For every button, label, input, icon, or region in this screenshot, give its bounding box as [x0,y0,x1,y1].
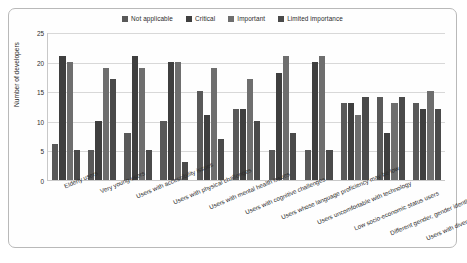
bar [67,62,73,180]
bar [399,97,405,180]
bar-group [337,33,373,180]
bar [103,68,109,180]
bar [348,103,354,180]
bar [276,73,282,180]
bar [254,121,260,180]
y-axis-label: Number of developers [13,42,20,107]
y-axis-tick-label: 5 [40,148,44,155]
bar [290,133,296,180]
bar [168,62,174,180]
legend-item[interactable]: Critical [186,15,215,22]
bar [247,79,253,180]
bar [341,103,347,180]
legend-label: Not applicable [131,15,173,22]
bar [132,56,138,180]
y-axis-tick-label: 10 [37,118,44,125]
chart-card: Not applicableCriticalImportantLimited i… [8,8,457,248]
bar-group [84,33,120,180]
bar [413,103,419,180]
bar [420,109,426,180]
bar [435,109,441,180]
legend-item[interactable]: Limited importance [278,15,343,22]
bar-group [48,33,84,180]
bar-group [373,33,409,180]
legend-label: Critical [195,15,215,22]
x-axis-tick-label: Users with mental health issues [208,204,211,210]
bar-groups [48,33,445,180]
y-axis-tick-label: 0 [40,178,44,185]
bar-group [301,33,337,180]
legend-swatch-icon [228,16,234,22]
legend-label: Important [237,15,265,22]
bar [305,150,311,180]
bar [52,144,58,180]
bar-group [409,33,445,180]
bar [146,150,152,180]
bar [319,56,325,180]
x-axis-labels: Elderly usersVery young usersUsers with … [47,183,445,247]
x-axis-tick-label: Low socio-economic status users [353,225,356,231]
x-axis-tick-label: Users with diverse cultural backgrounds [425,235,428,241]
bar [355,115,361,180]
bar-group [265,33,301,180]
bar [59,56,65,180]
x-axis-tick-label: Users with cognitive challenges [244,209,247,215]
legend-swatch-icon [186,16,192,22]
x-axis-tick-label: Different gender, gender identity of use… [389,230,392,236]
x-axis-tick-label: Users uncomfortable with technology [316,219,319,225]
bar [110,79,116,180]
bar [326,150,332,180]
y-axis-tick-label: 25 [37,30,44,37]
x-axis-tick-label: Elderly users [63,183,66,189]
legend-swatch-icon [278,16,284,22]
y-axis-tick-label: 15 [37,89,44,96]
legend-label: Limited importance [287,15,343,22]
bar-group [120,33,156,180]
bar [124,133,130,180]
x-axis-tick-label: Users whose language proficiency may be … [280,214,283,220]
bar [427,91,433,180]
bar [139,68,145,180]
legend-item[interactable]: Not applicable [122,15,173,22]
x-axis-tick-label: Users with physical challenges [172,199,175,205]
bar [362,97,368,180]
x-axis-tick-label: Users with accessibility issues [135,193,138,199]
legend-item[interactable]: Important [228,15,265,22]
chart-legend: Not applicableCriticalImportantLimited i… [9,15,456,22]
bar [218,139,224,180]
x-axis-tick-label: Very young users [99,188,102,194]
y-axis-tick-label: 20 [37,59,44,66]
plot-area: 0510152025 [47,33,445,181]
legend-swatch-icon [122,16,128,22]
bar-group [228,33,264,180]
bar [175,62,181,180]
bar-group [156,33,192,180]
bar [160,121,166,180]
bar [312,62,318,180]
bar [283,56,289,180]
bar [233,109,239,180]
bar [377,97,383,180]
bar-group [192,33,228,180]
